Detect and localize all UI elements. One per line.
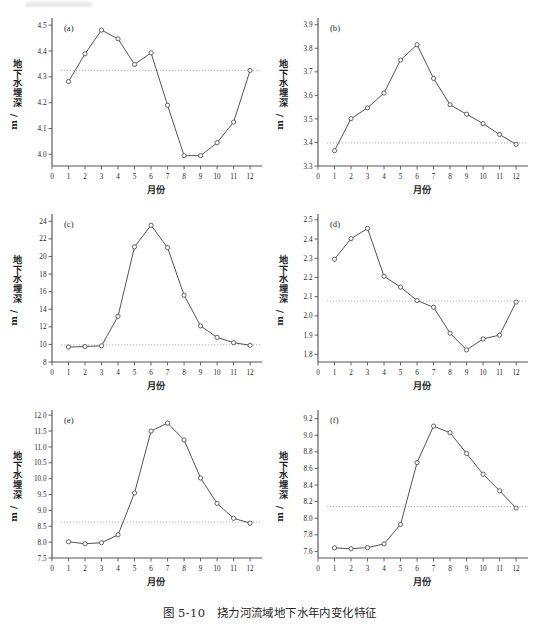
data-point — [481, 472, 485, 476]
data-point — [349, 237, 353, 241]
data-point — [165, 246, 169, 250]
svg-text:8: 8 — [182, 565, 186, 573]
svg-text:10.0: 10.0 — [34, 475, 47, 483]
panel-grid: 01234567891011124.04.14.24.34.44.5(a)月份地… — [0, 0, 539, 600]
svg-text:深: 深 — [13, 97, 23, 108]
figure-root: 01234567891011124.04.14.24.34.44.5(a)月份地… — [0, 0, 539, 631]
series-line — [335, 45, 517, 151]
x-axis-ticks: 0123456789101112 — [316, 166, 520, 181]
data-points — [66, 223, 252, 349]
x-axis-ticks: 0123456789101112 — [50, 558, 254, 573]
svg-text:深: 深 — [279, 489, 289, 500]
svg-text:10: 10 — [213, 565, 221, 573]
series-line — [69, 423, 251, 544]
svg-text:2.2: 2.2 — [304, 274, 313, 282]
data-point — [248, 521, 252, 525]
x-axis-ticks: 0123456789101112 — [316, 362, 520, 377]
data-point — [365, 106, 369, 110]
svg-text:2: 2 — [349, 565, 353, 573]
data-point — [481, 122, 485, 126]
data-point — [231, 516, 235, 520]
svg-text:2: 2 — [349, 173, 353, 181]
y-axis-title: 地下水埋深/m — [274, 254, 289, 325]
data-points — [332, 43, 518, 153]
svg-text:/: / — [274, 309, 285, 313]
svg-text:2.5: 2.5 — [304, 216, 313, 224]
svg-text:2: 2 — [83, 565, 87, 573]
data-point — [464, 348, 468, 352]
data-point — [132, 62, 136, 66]
svg-text:4: 4 — [382, 565, 386, 573]
data-point — [415, 298, 419, 302]
svg-text:12: 12 — [513, 565, 521, 573]
svg-text:8.0: 8.0 — [304, 515, 313, 523]
data-point — [382, 274, 386, 278]
svg-text:1: 1 — [67, 565, 71, 573]
svg-text:3.8: 3.8 — [304, 45, 313, 53]
svg-text:8: 8 — [448, 173, 452, 181]
y-axis-title: 地下水埋深/m — [8, 254, 23, 325]
data-points — [332, 226, 518, 352]
panel-d: 01234567891011121.81.92.02.12.22.32.42.5… — [272, 204, 534, 404]
data-point — [83, 542, 87, 546]
svg-text:10: 10 — [479, 173, 487, 181]
data-point — [182, 438, 186, 442]
y-axis-title: 地下水埋深/m — [8, 58, 23, 129]
data-point — [464, 451, 468, 455]
svg-text:8: 8 — [448, 565, 452, 573]
panel-f: 01234567891011127.67.88.08.28.48.68.89.0… — [272, 400, 534, 600]
svg-text:10.5: 10.5 — [34, 459, 47, 467]
data-points — [332, 424, 518, 551]
data-point — [116, 314, 120, 318]
data-point — [481, 337, 485, 341]
svg-text:8: 8 — [448, 369, 452, 377]
x-axis-title: 月份 — [146, 184, 166, 195]
data-point — [198, 154, 202, 158]
data-point — [365, 546, 369, 550]
data-point — [182, 293, 186, 297]
data-point — [149, 429, 153, 433]
series-line — [335, 228, 517, 349]
svg-text:3.3: 3.3 — [304, 163, 313, 171]
svg-text:9.0: 9.0 — [38, 507, 47, 515]
svg-text:3: 3 — [100, 565, 104, 573]
svg-text:8.5: 8.5 — [38, 523, 47, 531]
svg-text:3: 3 — [366, 565, 370, 573]
svg-text:11.0: 11.0 — [34, 444, 47, 452]
svg-text:5: 5 — [133, 173, 137, 181]
y-axis-ticks: 1.81.92.02.12.22.32.42.5 — [304, 216, 318, 358]
svg-text:7: 7 — [166, 173, 170, 181]
svg-text:3.6: 3.6 — [304, 92, 313, 100]
svg-text:7: 7 — [432, 369, 436, 377]
svg-text:m: m — [8, 316, 19, 326]
data-point — [448, 431, 452, 435]
svg-text:3: 3 — [100, 173, 104, 181]
data-point — [332, 149, 336, 153]
data-point — [398, 522, 402, 526]
x-axis-title: 月份 — [146, 576, 166, 587]
svg-text:/: / — [274, 505, 285, 509]
data-point — [165, 421, 169, 425]
svg-text:1: 1 — [67, 369, 71, 377]
svg-text:1: 1 — [333, 173, 337, 181]
svg-text:深: 深 — [279, 293, 289, 304]
data-point — [66, 79, 70, 83]
svg-text:1: 1 — [333, 369, 337, 377]
svg-text:10: 10 — [39, 341, 47, 349]
svg-text:4.1: 4.1 — [38, 125, 47, 133]
svg-text:2.0: 2.0 — [304, 312, 313, 320]
panel-letter: (c) — [64, 219, 74, 229]
svg-text:10: 10 — [213, 369, 221, 377]
data-point — [116, 533, 120, 537]
data-point — [497, 132, 501, 136]
svg-text:7.6: 7.6 — [304, 548, 313, 556]
svg-text:6: 6 — [149, 565, 153, 573]
svg-text:8: 8 — [182, 369, 186, 377]
svg-text:0: 0 — [316, 173, 320, 181]
axes — [318, 18, 528, 166]
svg-text:5: 5 — [399, 565, 403, 573]
data-point — [99, 541, 103, 545]
svg-text:4: 4 — [116, 369, 120, 377]
svg-text:11: 11 — [230, 369, 237, 377]
svg-text:6: 6 — [149, 369, 153, 377]
